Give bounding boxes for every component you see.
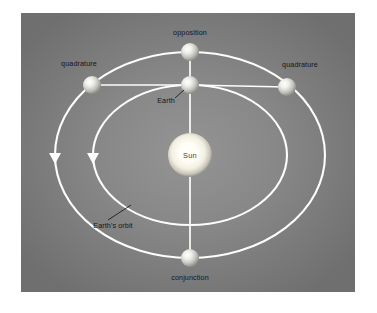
opposition-sphere <box>181 43 199 61</box>
diagram-root: Sun Earth opposition quadrature quadratu… <box>0 0 377 313</box>
conjunction-label: conjunction <box>171 273 208 282</box>
earth-label: Earth <box>157 96 175 105</box>
quadrature-right-label: quadrature <box>282 60 318 69</box>
quadrature-right-sphere <box>278 78 296 96</box>
earth-sphere <box>181 76 199 94</box>
sun-label: Sun <box>183 151 197 160</box>
earths-orbit-label: Earth's orbit <box>93 221 132 230</box>
conjunction-sphere <box>181 249 199 267</box>
opposition-label: opposition <box>173 28 207 37</box>
orbital-diagram-canvas: Sun Earth opposition quadrature quadratu… <box>0 0 377 313</box>
quadrature-left-sphere <box>83 76 101 94</box>
quadrature-left-label: quadrature <box>61 59 97 68</box>
